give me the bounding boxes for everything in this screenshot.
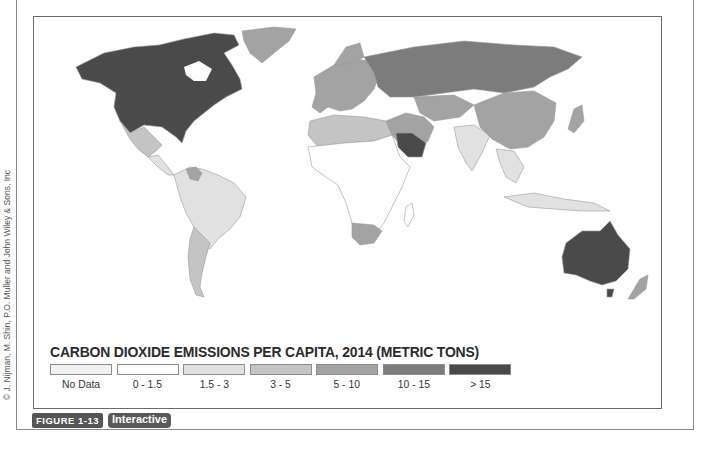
legend-label: 3 - 5 [270, 378, 291, 390]
figure-number-badge: FIGURE 1-13 [32, 413, 103, 428]
region-australia [562, 221, 630, 285]
region-europe [312, 59, 380, 113]
legend-item-5-10: 5 - 10 [316, 364, 378, 390]
map-title: CARBON DIOXIDE EMISSIONS PER CAPITA, 201… [50, 343, 479, 361]
region-russia [364, 41, 582, 97]
legend-swatch [183, 364, 245, 375]
legend-item-1.5-3: 1.5 - 3 [183, 364, 245, 390]
legend-row: No Data 0 - 1.5 1.5 - 3 3 - 5 5 - 10 10 … [50, 364, 527, 390]
legend-swatch [250, 364, 312, 375]
region-madagascar [404, 203, 414, 227]
legend-swatch [117, 364, 179, 375]
legend-label: > 15 [470, 378, 490, 390]
world-map[interactable] [34, 17, 660, 337]
legend-item-10-15: 10 - 15 [383, 364, 445, 390]
map-frame: CARBON DIOXIDE EMISSIONS PER CAPITA, 201… [33, 16, 662, 409]
region-indonesia [504, 193, 610, 211]
region-tasmania [607, 289, 614, 297]
legend-label: 0 - 1.5 [133, 378, 162, 390]
figure-tags: FIGURE 1-13 Interactive [32, 413, 171, 428]
region-new-zealand [628, 275, 648, 299]
map-legend: CARBON DIOXIDE EMISSIONS PER CAPITA, 201… [50, 343, 527, 390]
legend-label: No Data [62, 378, 100, 390]
legend-label: 10 - 15 [397, 378, 429, 390]
legend-swatch [449, 364, 511, 375]
region-south-america-north [174, 167, 246, 249]
region-central-america [148, 155, 174, 175]
region-north-america [76, 33, 242, 143]
region-greenland [242, 27, 296, 63]
interactive-button[interactable]: Interactive [108, 413, 171, 428]
legend-label: 5 - 10 [334, 378, 360, 390]
legend-label: 1.5 - 3 [199, 378, 228, 390]
legend-item-0-1.5: 0 - 1.5 [117, 364, 179, 390]
copyright-credit: © J. Nijman, M. Shin, P.O. Muller and Jo… [2, 170, 12, 400]
region-southeast-asia [496, 149, 524, 183]
legend-swatch [383, 364, 445, 375]
legend-item-no-data: No Data [50, 364, 112, 390]
legend-item-3-5: 3 - 5 [250, 364, 312, 390]
legend-item-over-15: > 15 [449, 364, 511, 390]
region-japan [568, 105, 584, 133]
legend-swatch [50, 364, 112, 375]
legend-swatch [316, 364, 378, 375]
